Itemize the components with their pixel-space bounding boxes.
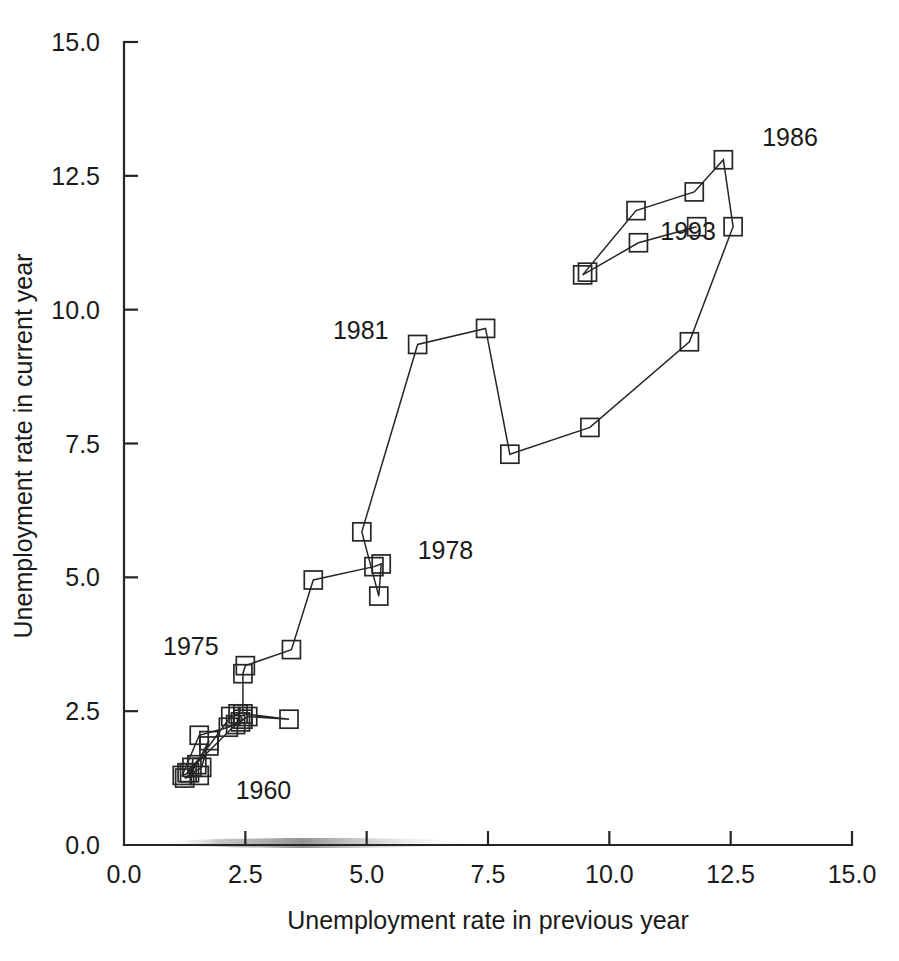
year-annotation-label: 1960 <box>236 776 292 804</box>
year-annotation-label: 1993 <box>660 217 716 245</box>
x-tick-label: 0.0 <box>107 860 142 888</box>
x-tick-label: 10.0 <box>585 860 634 888</box>
year-annotation-label: 1986 <box>762 123 818 151</box>
y-tick-label: 2.5 <box>65 697 100 725</box>
y-tick-label: 12.5 <box>51 162 100 190</box>
y-tick-label: 10.0 <box>51 296 100 324</box>
year-annotations: 196019751978198119861993 <box>163 123 818 804</box>
data-point-markers <box>173 151 742 787</box>
y-axis-title: Unemployment rate in current year <box>9 254 37 639</box>
x-axis-title: Unemployment rate in previous year <box>287 906 689 934</box>
x-axis-tick-labels: 0.02.55.07.510.012.515.0 <box>107 860 877 888</box>
y-axis-tick-labels: 0.02.55.07.510.012.515.0 <box>51 28 100 859</box>
x-tick-label: 7.5 <box>471 860 506 888</box>
year-annotation-label: 1975 <box>163 632 219 660</box>
year-annotation-label: 1978 <box>418 536 474 564</box>
y-tick-label: 7.5 <box>65 430 100 458</box>
scan-smudge-artifact <box>160 838 480 848</box>
chart-figure: 0.02.55.07.510.012.515.0 0.02.55.07.510.… <box>0 0 899 961</box>
x-tick-label: 2.5 <box>228 860 263 888</box>
x-tick-label: 5.0 <box>349 860 384 888</box>
scatter-plot-canvas: 0.02.55.07.510.012.515.0 0.02.55.07.510.… <box>0 0 899 961</box>
year-annotation-label: 1981 <box>333 316 389 344</box>
y-tick-label: 5.0 <box>65 563 100 591</box>
y-tick-label: 15.0 <box>51 28 100 56</box>
y-axis-ticks <box>124 42 138 711</box>
x-tick-label: 12.5 <box>706 860 755 888</box>
series-polyline <box>182 160 733 778</box>
y-tick-label: 0.0 <box>65 831 100 859</box>
x-tick-label: 15.0 <box>828 860 877 888</box>
data-series-group <box>173 151 742 787</box>
